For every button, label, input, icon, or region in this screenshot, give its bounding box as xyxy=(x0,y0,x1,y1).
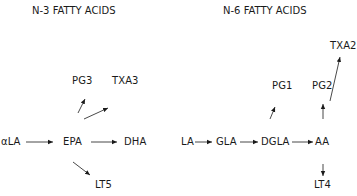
node-txa3: TXA3 xyxy=(112,75,139,87)
arrow-epa-txa3 xyxy=(84,108,108,119)
arrow-epa-lt5 xyxy=(73,162,90,175)
n6-title: N-6 FATTY ACIDS xyxy=(223,5,307,17)
n3-title: N-3 FATTY ACIDS xyxy=(32,5,116,17)
node-epa: EPA xyxy=(63,136,82,148)
arrow-aa-txa2 xyxy=(330,57,340,101)
node-lt5: LT5 xyxy=(95,179,112,191)
node-aa: AA xyxy=(315,136,329,148)
node-pg1: PG1 xyxy=(272,80,292,92)
arrow-epa-pg3 xyxy=(78,99,85,113)
node-pg2: PG2 xyxy=(312,80,332,92)
node-dgla: DGLA xyxy=(261,136,290,148)
node-gla: GLA xyxy=(216,136,237,148)
node-lt4: LT4 xyxy=(314,179,331,191)
node-dha: DHA xyxy=(124,136,146,148)
node-la: LA xyxy=(181,136,194,148)
node-pg3: PG3 xyxy=(72,75,92,87)
node-ala: αLA xyxy=(1,136,21,148)
node-txa2: TXA2 xyxy=(330,40,357,52)
arrow-dgla-pg1 xyxy=(270,107,275,119)
